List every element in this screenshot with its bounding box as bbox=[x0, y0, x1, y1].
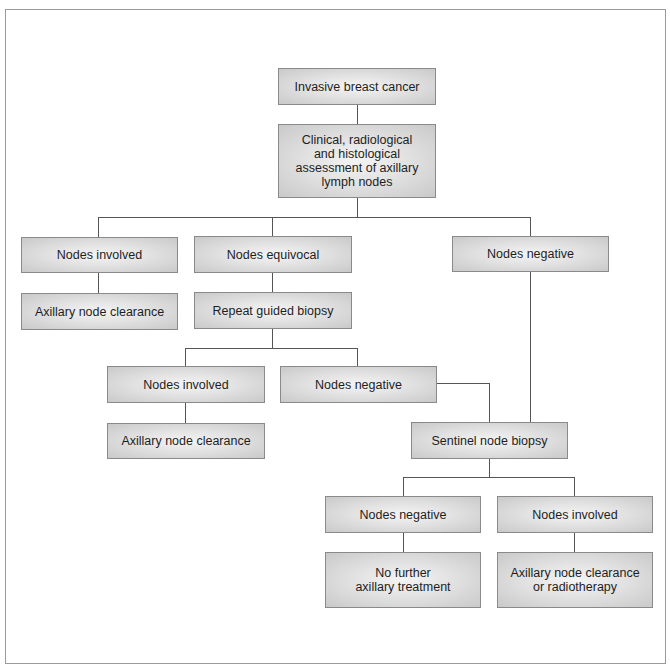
node-nodes-involved-2: Nodes involved bbox=[107, 366, 265, 403]
node-axillary-assessment: Clinical, radiological and histological … bbox=[278, 124, 436, 198]
node-invasive-breast-cancer: Invasive breast cancer bbox=[278, 68, 436, 105]
connector bbox=[403, 533, 404, 552]
connector bbox=[357, 105, 358, 124]
connector bbox=[574, 533, 575, 552]
connector bbox=[530, 272, 531, 422]
node-sentinel-node-biopsy: Sentinel node biopsy bbox=[411, 422, 568, 459]
node-nodes-equivocal: Nodes equivocal bbox=[194, 236, 352, 273]
node-nodes-negative-3: Nodes negative bbox=[325, 496, 481, 533]
connector bbox=[185, 348, 358, 349]
connector bbox=[574, 477, 575, 496]
node-nodes-negative-2: Nodes negative bbox=[280, 366, 437, 403]
connector bbox=[403, 477, 575, 478]
node-nodes-involved-1: Nodes involved bbox=[21, 237, 178, 273]
connector bbox=[489, 459, 490, 477]
connector bbox=[272, 273, 273, 292]
node-no-further-treatment: No further axillary treatment bbox=[325, 552, 481, 608]
connector bbox=[272, 329, 273, 348]
connector bbox=[272, 217, 273, 237]
node-axillary-clearance-1: Axillary node clearance bbox=[21, 293, 178, 330]
connector bbox=[98, 217, 99, 237]
connector bbox=[98, 273, 99, 293]
connector bbox=[357, 198, 358, 217]
connector bbox=[403, 477, 404, 496]
node-nodes-negative-1: Nodes negative bbox=[452, 236, 609, 272]
node-axillary-clearance-2: Axillary node clearance bbox=[107, 423, 265, 459]
connector bbox=[98, 217, 531, 218]
node-repeat-guided-biopsy: Repeat guided biopsy bbox=[194, 292, 352, 329]
node-clearance-or-radiotherapy: Axillary node clearance or radiotherapy bbox=[497, 552, 653, 608]
connector bbox=[437, 383, 490, 384]
connector bbox=[185, 348, 186, 366]
connector bbox=[489, 383, 490, 422]
connector bbox=[185, 403, 186, 423]
node-nodes-involved-3: Nodes involved bbox=[497, 496, 653, 533]
connector bbox=[530, 217, 531, 237]
connector bbox=[357, 348, 358, 366]
